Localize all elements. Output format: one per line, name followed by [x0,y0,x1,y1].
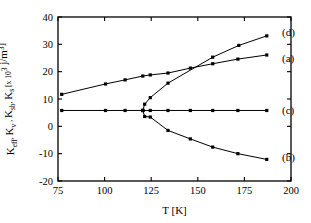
data-point [166,82,169,85]
y-tick-label-6: -20 [39,176,53,187]
y-tick-label-5: -10 [39,148,53,159]
x-tick-label-1: 100 [97,185,113,196]
y-axis-title: Keff, Kv , Ksb, Ks [x 103 j/m3] [0,43,19,156]
data-point [265,34,268,37]
data-point [60,109,63,112]
series-label-c: (c) [282,104,295,117]
y-tick-label-3: 10 [43,94,54,105]
y-tick-label-4: 0 [48,121,53,132]
data-point [143,115,146,118]
data-point [189,137,192,140]
data-point [166,71,169,74]
data-point [265,53,268,56]
series-label-a: (a) [282,52,295,65]
data-point [211,146,214,149]
data-point [265,109,268,112]
data-point [149,109,152,112]
data-point [124,109,127,112]
data-point [124,78,127,81]
data-point [211,56,214,59]
data-point [237,44,240,47]
data-point [60,93,63,96]
x-tick-label-2: 125 [143,185,159,196]
data-point [104,109,107,112]
data-point [104,82,107,85]
y-tick-label-2: 20 [43,66,54,77]
data-point [166,129,169,132]
data-point [149,96,152,99]
svg-text:Keff, Kv , Ksb, Ks [x 103 j/: Keff, Kv , Ksb, Ks [x 103 j/m3] [0,43,19,156]
data-point [149,115,152,118]
series-label-b: (b) [282,151,295,164]
data-point [166,109,169,112]
x-tick-label-0: 75 [53,185,64,196]
y-tick-label-0: 40 [43,12,54,23]
y-tick-label-1: 30 [43,39,54,50]
data-point [141,109,144,112]
series-line-d [143,36,267,111]
data-point [265,158,268,161]
x-axis-title: T [K] [162,204,187,216]
chart-container: 75100125150175200403020100-10-20(a)(d)(c… [0,0,311,223]
data-point [143,103,146,106]
data-point [211,109,214,112]
series-label-d: (d) [282,26,295,39]
data-point [141,74,144,77]
data-point [149,73,152,76]
series-line-b [143,110,267,159]
data-point [236,109,239,112]
x-tick-label-5: 200 [283,185,299,196]
series-line-a [62,55,267,94]
data-point [189,109,192,112]
line-chart: 75100125150175200403020100-10-20(a)(d)(c… [0,0,311,223]
data-point [236,152,239,155]
plot-frame [58,17,291,181]
data-point [236,57,239,60]
x-tick-label-4: 175 [237,185,253,196]
data-point [211,62,214,65]
x-tick-label-3: 150 [190,185,206,196]
